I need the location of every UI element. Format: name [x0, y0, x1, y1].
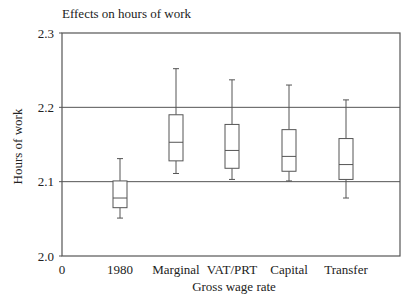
box-plot-chart: Effects on hours of work 2.02.12.22.3Hou…: [0, 0, 415, 307]
x-tick-label: VAT/PRT: [207, 262, 257, 277]
y-tick-label: 2.0: [38, 249, 54, 264]
box-capital: [282, 130, 296, 172]
y-tick-label: 2.2: [38, 100, 54, 115]
x-axis-label: Gross wage rate: [192, 279, 276, 294]
x-origin-label: 0: [59, 262, 66, 277]
box-1980: [113, 181, 127, 208]
plot-area: 2.02.12.22.3Hours of work01980MarginalVA…: [0, 0, 415, 307]
y-tick-label: 2.3: [38, 26, 54, 41]
x-tick-label: Transfer: [324, 262, 368, 277]
box-marginal: [169, 115, 183, 161]
box-vat-prt: [225, 124, 239, 168]
box-transfer: [339, 139, 353, 180]
chart-title: Effects on hours of work: [62, 6, 191, 22]
y-axis-label: Hours of work: [10, 108, 25, 184]
x-tick-label: Marginal: [152, 262, 200, 277]
y-tick-label: 2.1: [38, 174, 54, 189]
x-tick-label: 1980: [107, 262, 133, 277]
x-tick-label: Capital: [270, 262, 308, 277]
